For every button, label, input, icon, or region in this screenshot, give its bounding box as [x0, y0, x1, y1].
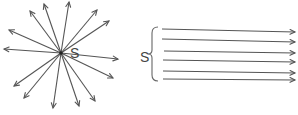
- diagram-canvas: S S: [0, 0, 298, 115]
- parallel-beam-rays: [162, 29, 295, 82]
- parallel-ray: [162, 29, 295, 32]
- diverging-ray: [44, 4, 61, 53]
- point-source-center: [59, 51, 63, 55]
- parallel-ray: [163, 79, 295, 80]
- parallel-ray: [164, 51, 295, 53]
- diverging-ray: [61, 21, 109, 53]
- diverging-ray: [61, 53, 113, 78]
- point-source-rays: [4, 2, 118, 108]
- parallel-ray: [163, 71, 295, 73]
- point-source-label: S: [70, 45, 79, 61]
- parallel-source-label: S: [140, 49, 149, 65]
- parallel-ray: [163, 60, 295, 62]
- light-source-diagram: S S: [0, 0, 298, 115]
- parallel-ray: [162, 39, 295, 42]
- brace-symbol: [148, 27, 158, 81]
